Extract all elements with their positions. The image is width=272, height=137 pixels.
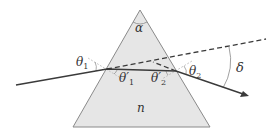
theta1-label: θ1 [76,56,88,71]
theta2-subscript: 2 [196,71,201,80]
refractive-index-label: n [137,102,145,114]
apex-angle-label: α [135,22,143,34]
theta1-subscript: 1 [83,62,88,71]
theta2-prime-label: θ′2 [151,72,166,87]
theta2-prime-symbol: θ′ [151,71,161,85]
theta1-prime-symbol: θ′ [119,71,129,85]
deviation-arc [223,47,231,88]
theta2-prime-subscript: 2 [161,78,166,87]
theta1-arc [95,62,96,71]
deviation-label: δ [236,61,244,74]
theta2-label: θ2 [189,65,201,80]
theta1-prime-subscript: 1 [129,78,134,87]
theta1-prime-label: θ′1 [119,72,134,87]
prism-diagram: α θ1 θ′1 θ′2 θ2 δ n [0,0,272,137]
